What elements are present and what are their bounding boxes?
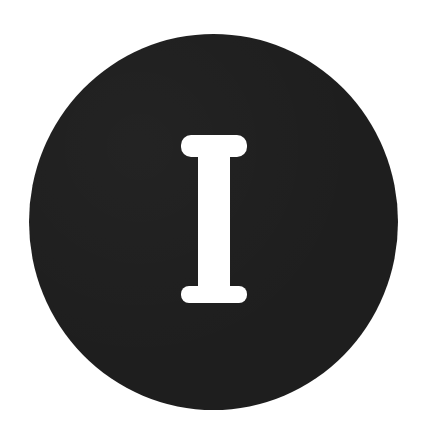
letter-i-icon [0,0,427,441]
